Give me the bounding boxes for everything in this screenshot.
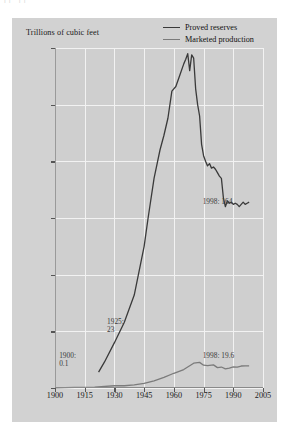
x-tick-label: 1975	[195, 391, 211, 400]
y-tick-mark	[51, 105, 55, 106]
x-tick-mark	[55, 388, 56, 392]
x-tick-label: 1930	[106, 391, 122, 400]
annotation-line-2: 23	[107, 326, 124, 334]
annotation-a1900: 1900:0.1	[59, 352, 76, 369]
legend-swatch-marketed-production	[163, 39, 180, 40]
y-axis-title: Trillions of cubic feet	[26, 28, 99, 37]
legend-item-proved-reserves: Proved reserves	[163, 22, 281, 33]
y-tick-mark	[51, 275, 55, 276]
x-tick-mark	[114, 388, 115, 392]
annotation-line-1: 1998: 19.6	[203, 352, 235, 360]
legend-item-marketed-production: Marketed production	[163, 34, 281, 45]
x-tick-label: 1960	[166, 391, 182, 400]
x-axis-line	[55, 387, 263, 388]
gridline-vertical	[263, 48, 264, 388]
x-tick-label: 2005	[255, 391, 271, 400]
x-tick-label: 1900	[47, 391, 63, 400]
y-tick-mark	[51, 218, 55, 219]
legend-label-proved-reserves: Proved reserves	[185, 23, 237, 32]
x-tick-mark	[85, 388, 86, 392]
x-tick-label: 1945	[136, 391, 152, 400]
annotation-p1998: 1998: 19.6	[203, 352, 235, 360]
legend-label-marketed-production: Marketed production	[185, 35, 254, 44]
chart-legend: Proved reserves Marketed production	[163, 22, 281, 46]
top-clipped-artifact: || ||	[0, 0, 289, 10]
annotation-line-2: 0.1	[59, 360, 76, 368]
y-axis-line	[55, 48, 56, 388]
series-lines	[55, 48, 263, 388]
annotation-r1998: 1998: 164	[203, 198, 233, 206]
annotation-line-1: 1998: 164	[203, 198, 233, 206]
gridline-horizontal	[55, 388, 263, 389]
x-tick-mark	[174, 388, 175, 392]
legend-swatch-proved-reserves	[163, 27, 180, 28]
y-tick-mark	[51, 161, 55, 162]
x-tick-mark	[233, 388, 234, 392]
plot-area: 050100150200250300 190019151930194519601…	[55, 48, 263, 388]
x-tick-mark	[144, 388, 145, 392]
series-line-marketed-production	[55, 362, 249, 388]
y-tick-mark	[51, 331, 55, 332]
x-tick-mark	[263, 388, 264, 392]
ghost-text: || ||	[4, 0, 28, 3]
x-tick-label: 1915	[77, 391, 93, 400]
x-tick-mark	[204, 388, 205, 392]
x-tick-label: 1990	[225, 391, 241, 400]
y-tick-mark	[51, 48, 55, 49]
annotation-a1925: 1925:23	[107, 318, 124, 335]
